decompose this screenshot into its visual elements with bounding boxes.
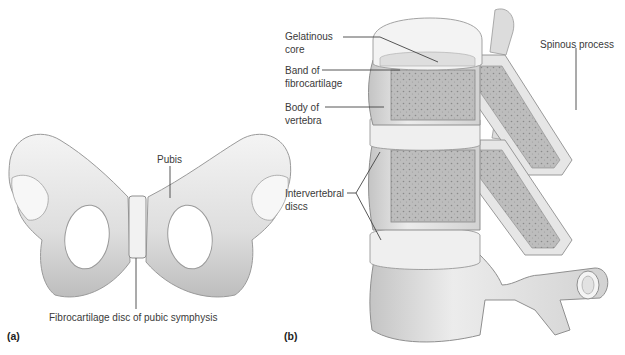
pubic-symphysis-disc-shape: [129, 196, 146, 258]
label-gelatinous-core-line2: core: [285, 44, 304, 55]
panel-a-pubic-symphysis: Pubis Fibrocartilage disc of pubic symph…: [0, 0, 300, 355]
label-band-line1: Band of: [285, 65, 319, 76]
panel-tag-a: (a): [7, 330, 20, 342]
label-intervertebral-discs: Intervertebral discs: [285, 187, 344, 213]
panel-tag-b: (b): [284, 330, 297, 342]
label-discs-line2: discs: [285, 201, 308, 212]
label-spinous-process: Spinous process: [540, 38, 614, 51]
panel-b-vertebral-column: Gelatinous core Band of fibrocartilage B…: [270, 0, 625, 355]
label-fibrocartilage-disc: Fibrocartilage disc of pubic symphysis: [49, 311, 217, 324]
label-gelatinous-core: Gelatinous core: [285, 30, 333, 56]
label-body-of-vertebra: Body of vertebra: [285, 101, 322, 127]
label-band-of-fibrocartilage: Band of fibrocartilage: [285, 64, 342, 90]
label-gelatinous-core-line1: Gelatinous: [285, 31, 333, 42]
label-pubis: Pubis: [157, 153, 182, 166]
label-discs-line1: Intervertebral: [285, 188, 344, 199]
label-band-line2: fibrocartilage: [285, 78, 342, 89]
label-body-line1: Body of: [285, 102, 319, 113]
label-body-line2: vertebra: [285, 115, 322, 126]
pelvis-illustration: [0, 0, 300, 355]
